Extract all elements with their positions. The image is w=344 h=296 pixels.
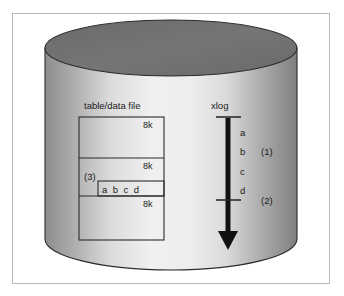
cylinder-body — [45, 48, 297, 270]
callout-2: (2) — [261, 196, 273, 206]
row-label-abcd: a b c d — [102, 185, 140, 195]
xlog-entry-d: d — [240, 186, 245, 196]
xlog-label: xlog — [211, 101, 228, 111]
page-marker-8k-3: 8k — [143, 200, 153, 209]
cylinder-top — [45, 20, 297, 76]
xlog-entry-a: a — [240, 128, 245, 138]
table-file-label: table/data file — [84, 101, 141, 111]
figure-root: table/data file 8k 8k 8k (3) a b c d xlo… — [0, 0, 344, 296]
callout-1: (1) — [261, 147, 273, 157]
xlog-entry-c: c — [240, 167, 245, 177]
page-marker-8k-1: 8k — [143, 121, 153, 130]
page-marker-8k-2: 8k — [143, 162, 153, 171]
xlog-entry-b: b — [240, 147, 245, 157]
callout-3: (3) — [84, 172, 96, 182]
figure-graphics — [0, 0, 344, 296]
